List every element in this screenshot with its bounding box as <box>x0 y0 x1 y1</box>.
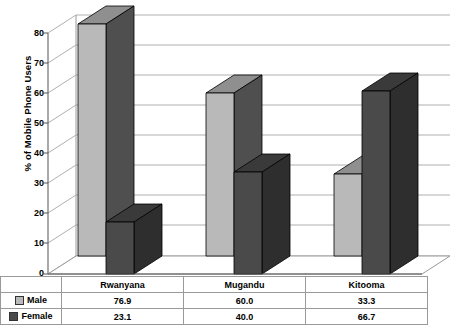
table-row-female: Female 23.1 40.0 66.7 <box>1 309 428 325</box>
value-male-kitooma: 33.3 <box>306 293 428 309</box>
legend-swatch-female-icon <box>9 312 18 321</box>
chart-canvas <box>0 0 461 278</box>
category-header-rwanyana: Rwanyana <box>62 277 184 293</box>
y-tick-marks <box>44 33 48 274</box>
data-table: Rwanyana Mugandu Kitooma Male 76.9 60.0 … <box>0 276 428 325</box>
bar-female-kitooma <box>362 73 418 274</box>
category-header-kitooma: Kitooma <box>306 277 428 293</box>
chart-screenshot: % of Mobile Phone Users 80 70 60 50 40 3… <box>0 0 461 331</box>
table-corner-cell <box>1 277 62 293</box>
chart-plot-area: % of Mobile Phone Users 80 70 60 50 40 3… <box>0 0 461 278</box>
legend-label-male: Male <box>27 293 47 307</box>
value-female-mugandu: 40.0 <box>184 309 306 325</box>
legend-label-female: Female <box>21 309 52 323</box>
left-side-wall <box>48 15 76 274</box>
value-male-rwanyana: 76.9 <box>62 293 184 309</box>
bar-female-mugandu <box>234 154 290 274</box>
table-row-categories: Rwanyana Mugandu Kitooma <box>1 277 428 293</box>
value-male-mugandu: 60.0 <box>184 293 306 309</box>
table-row-male: Male 76.9 60.0 33.3 <box>1 293 428 309</box>
category-header-mugandu: Mugandu <box>184 277 306 293</box>
legend-item-female[interactable]: Female <box>1 309 62 325</box>
value-female-rwanyana: 23.1 <box>62 309 184 325</box>
data-table-wrapper: Rwanyana Mugandu Kitooma Male 76.9 60.0 … <box>0 276 461 325</box>
value-female-kitooma: 66.7 <box>306 309 428 325</box>
legend-swatch-male-icon <box>15 296 24 305</box>
legend-item-male[interactable]: Male <box>1 293 62 309</box>
